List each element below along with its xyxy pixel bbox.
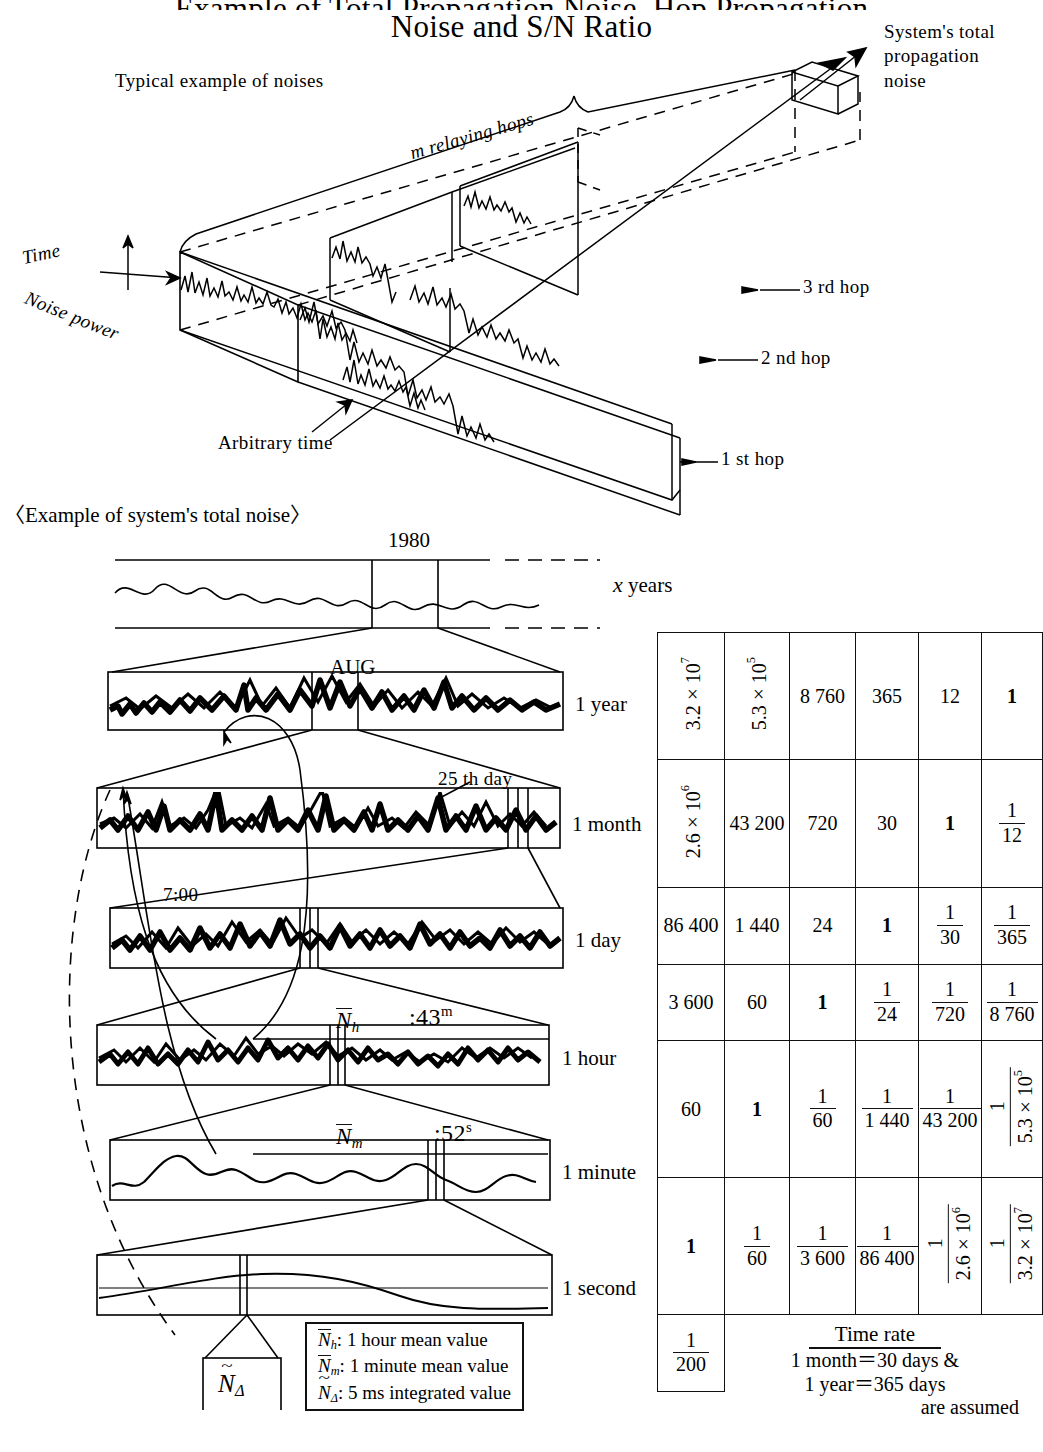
nm-time-label: :52s xyxy=(434,1119,472,1147)
hour-7-label: 7:00 xyxy=(163,884,198,906)
cell-r4c4: 143 200 xyxy=(919,1041,982,1178)
strip-label-1-day: 1 day xyxy=(575,928,621,953)
hop-label-2nd: 2 nd hop xyxy=(761,347,831,369)
symbol-legend: Nh: 1 hour mean value Nm: 1 minute mean … xyxy=(305,1322,524,1411)
cell-r0c4: 12 xyxy=(919,633,982,760)
strip-label-1-month: 1 month xyxy=(572,812,641,837)
table-row: 3 600 60 1 124 1720 18 760 xyxy=(658,964,1043,1041)
time-rate-line-1: 1 month＝30 days & xyxy=(725,1349,1025,1372)
cell-r0c1: 5.3×105 xyxy=(725,633,790,760)
arbitrary-time-label: Arbitrary time xyxy=(218,432,333,454)
cell-r1c5: 112 xyxy=(982,760,1043,887)
typical-example-caption: Typical example of noises xyxy=(115,70,324,92)
cell-r0c5: 1 xyxy=(982,633,1043,760)
cell-r2c3: 1 xyxy=(856,887,919,964)
cell-r0c2: 8 760 xyxy=(790,633,856,760)
table-row: 86 400 1 440 24 1 130 1365 xyxy=(658,887,1043,964)
day-25-label: 25 th day xyxy=(438,768,512,790)
time-rate-footer: Time rate 1 month＝30 days & 1 year＝365 d… xyxy=(725,1322,1025,1419)
cell-r2c1: 1 440 xyxy=(725,887,790,964)
cell-r2c0: 86 400 xyxy=(658,887,725,964)
cell-r4c5: 15.3×105 xyxy=(982,1041,1043,1178)
cell-r0c3: 365 xyxy=(856,633,919,760)
cell-r1c3: 30 xyxy=(856,760,919,887)
nm-symbol: Nm xyxy=(336,1124,363,1152)
cell-r4c3: 11 440 xyxy=(856,1041,919,1178)
cell-r5c0: 1 xyxy=(658,1178,725,1315)
cell-r2c4: 130 xyxy=(919,887,982,964)
cell-r3c5: 18 760 xyxy=(982,964,1043,1041)
aug-label: AUG xyxy=(330,655,376,680)
nh-time-label: :43m xyxy=(409,1003,453,1031)
cell-r5c2: 13 600 xyxy=(790,1178,856,1315)
cell-r2c5: 1365 xyxy=(982,887,1043,964)
table-row: 60 1 160 11 440 143 200 15.3×105 xyxy=(658,1041,1043,1178)
strip-label-1-minute: 1 minute xyxy=(562,1160,636,1185)
x-years-label: x years xyxy=(613,572,672,598)
cell-r5c5: 13.2×107 xyxy=(982,1178,1043,1315)
nh-symbol: Nh xyxy=(336,1008,360,1036)
cell-r4c2: 160 xyxy=(790,1041,856,1178)
time-rate-title: Time rate xyxy=(809,1322,941,1349)
strip-label-1-hour: 1 hour xyxy=(562,1046,616,1071)
legend-row-nm: Nm: 1 minute mean value xyxy=(318,1353,511,1379)
cell-r0c0: 3.2×107 xyxy=(658,633,725,760)
table-row: 3.2×107 5.3×105 8 760 365 12 1 xyxy=(658,633,1043,760)
table-row: 2.6×106 43 200 720 30 1 112 xyxy=(658,760,1043,887)
strip-label-1-year: 1 year xyxy=(575,692,627,717)
strip-label-1-second: 1 second xyxy=(562,1276,636,1301)
year-1980-label: 1980 xyxy=(388,528,430,553)
time-rate-line-3: are assumed xyxy=(725,1396,1025,1419)
cell-r3c3: 124 xyxy=(856,964,919,1041)
cell-r1c4: 1 xyxy=(919,760,982,887)
n-delta-symbol: NΔ xyxy=(218,1370,245,1401)
cell-r5c1: 160 xyxy=(725,1178,790,1315)
hop-label-3rd: 3 rd hop xyxy=(803,276,870,298)
cell-r3c2: 1 xyxy=(790,964,856,1041)
cell-r6c0: 1200 xyxy=(658,1315,725,1392)
time-rate-table: 3.2×107 5.3×105 8 760 365 12 1 2.6×106 4… xyxy=(657,632,1036,1392)
cell-r3c4: 1720 xyxy=(919,964,982,1041)
cell-r5c4: 12.6×106 xyxy=(919,1178,982,1315)
legend-row-nh: Nh: 1 hour mean value xyxy=(318,1327,511,1353)
cell-r1c1: 43 200 xyxy=(725,760,790,887)
cell-r1c2: 720 xyxy=(790,760,856,887)
legend-row-ndelta: NΔ: 5 ms integrated value xyxy=(318,1380,511,1406)
cell-r3c0: 3 600 xyxy=(658,964,725,1041)
cell-r1c0: 2.6×106 xyxy=(658,760,725,887)
cell-r2c2: 24 xyxy=(790,887,856,964)
timescale-cascade-diagram xyxy=(0,520,660,1410)
cell-r3c1: 60 xyxy=(725,964,790,1041)
cell-r4c0: 60 xyxy=(658,1041,725,1178)
time-rate-line-2: 1 year＝365 days xyxy=(725,1373,1025,1396)
hop-label-1st: 1 st hop xyxy=(721,448,784,470)
table-row: 1 160 13 600 186 400 12.6×106 13.2×107 xyxy=(658,1178,1043,1315)
cell-r4c1: 1 xyxy=(725,1041,790,1178)
cell-r5c3: 186 400 xyxy=(856,1178,919,1315)
system-total-noise-label: System's total propagation noise xyxy=(884,20,995,93)
